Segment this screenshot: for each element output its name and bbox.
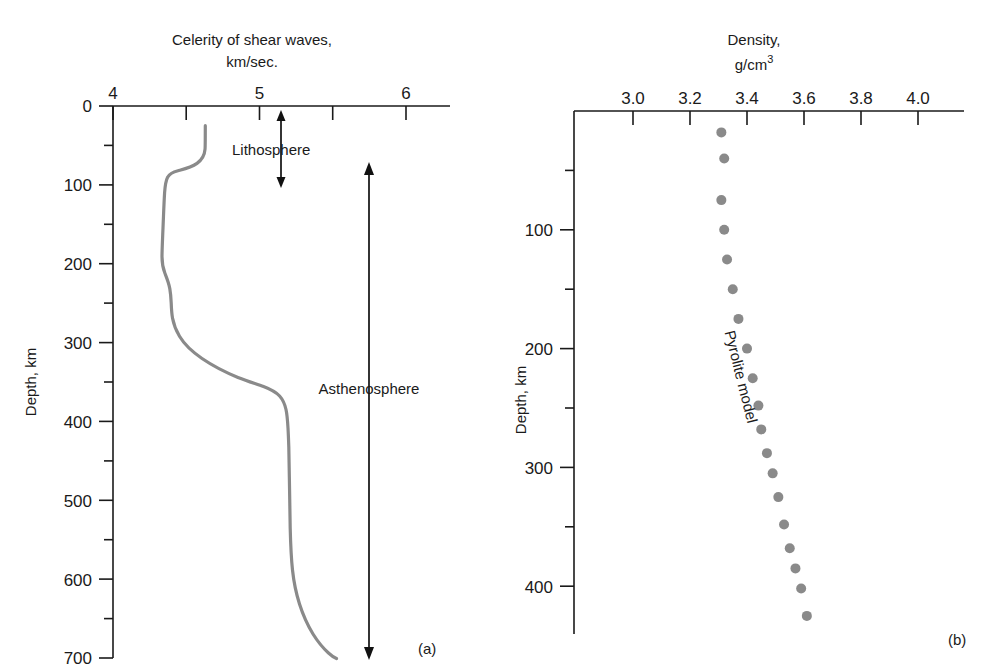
panel-b-x-tick-36: 3.6	[792, 89, 816, 108]
data-point	[785, 543, 795, 553]
data-point	[728, 284, 738, 294]
panel-a-y-tick-0: 0	[83, 97, 92, 116]
panel-a-y-axis-label: Depth, km	[22, 348, 39, 416]
lithosphere-label: Lithosphere	[232, 141, 310, 158]
panel-a-x-tick-labels: 4 5 6	[108, 84, 410, 103]
panel-a-label: (a)	[418, 640, 436, 657]
panel-a-svg: Celerity of shear waves, km/sec. 4 5 6	[0, 0, 504, 669]
data-point	[719, 225, 729, 235]
data-point	[796, 584, 806, 594]
data-point	[756, 424, 766, 434]
panel-b-title-line2-group: g/cm3	[735, 53, 774, 73]
panel-a-y-tick-labels: 0 100 200 300 400 500 600 700	[64, 97, 92, 668]
panel-b-y-tick-200: 200	[525, 340, 553, 359]
panel-b-title-line1: Density,	[727, 31, 780, 48]
panel-a-shear-wave-chart: Celerity of shear waves, km/sec. 4 5 6	[0, 0, 504, 669]
data-point	[802, 611, 812, 621]
data-point	[779, 519, 789, 529]
panel-b-x-tick-32: 3.2	[678, 89, 702, 108]
panel-a-y-tick-300: 300	[64, 334, 92, 353]
panel-b-y-ticks	[560, 170, 574, 586]
panel-b-y-tick-300: 300	[525, 459, 553, 478]
panel-a-x-ticks	[113, 106, 406, 120]
panel-b-x-tick-40: 4.0	[906, 89, 930, 108]
asthenosphere-label: Asthenosphere	[319, 380, 420, 397]
panel-b-label: (b)	[948, 631, 966, 648]
panel-a-y-ticks	[99, 106, 113, 658]
panel-a-x-tick-5: 5	[255, 84, 264, 103]
panel-b-axes	[574, 111, 964, 634]
shear-wave-velocity-curve	[162, 126, 337, 659]
pyrolite-data-points	[716, 127, 812, 621]
data-point	[790, 563, 800, 573]
panel-b-x-tick-34: 3.4	[735, 89, 759, 108]
panel-a-y-tick-400: 400	[64, 413, 92, 432]
data-point	[716, 195, 726, 205]
panel-a-y-tick-700: 700	[64, 649, 92, 668]
panel-b-title-line2: g/cm	[735, 56, 768, 73]
panel-b-title-superscript: 3	[767, 53, 773, 65]
data-point	[722, 255, 732, 265]
panel-b-x-ticks	[633, 111, 918, 125]
panel-b-y-tick-100: 100	[525, 221, 553, 240]
panel-a-x-tick-6: 6	[401, 84, 410, 103]
panel-b-y-tick-400: 400	[525, 578, 553, 597]
panel-b-density-chart: Density, g/cm3 3.0 3.2 3.4	[504, 0, 1008, 669]
panel-b-x-tick-labels: 3.0 3.2 3.4 3.6 3.8 4.0	[621, 89, 930, 108]
data-point	[762, 448, 772, 458]
data-point	[768, 468, 778, 478]
panel-a-y-tick-500: 500	[64, 492, 92, 511]
data-point	[773, 492, 783, 502]
panel-a-title-line1: Celerity of shear waves,	[172, 31, 332, 48]
panel-b-y-axis-label: Depth, km	[512, 366, 529, 434]
data-point	[716, 127, 726, 137]
data-point	[733, 314, 743, 324]
panel-a-y-tick-600: 600	[64, 571, 92, 590]
data-point	[719, 154, 729, 164]
panel-b-x-tick-30: 3.0	[621, 89, 645, 108]
panel-a-title-line2: km/sec.	[226, 53, 278, 70]
panel-a-x-tick-4: 4	[108, 84, 117, 103]
panel-a-y-tick-100: 100	[64, 176, 92, 195]
asthenosphere-arrow	[364, 162, 374, 660]
panel-b-x-tick-38: 3.8	[849, 89, 873, 108]
figure-container: Celerity of shear waves, km/sec. 4 5 6	[0, 0, 1008, 669]
panel-b-svg: Density, g/cm3 3.0 3.2 3.4	[504, 0, 1008, 669]
panel-a-y-tick-200: 200	[64, 255, 92, 274]
